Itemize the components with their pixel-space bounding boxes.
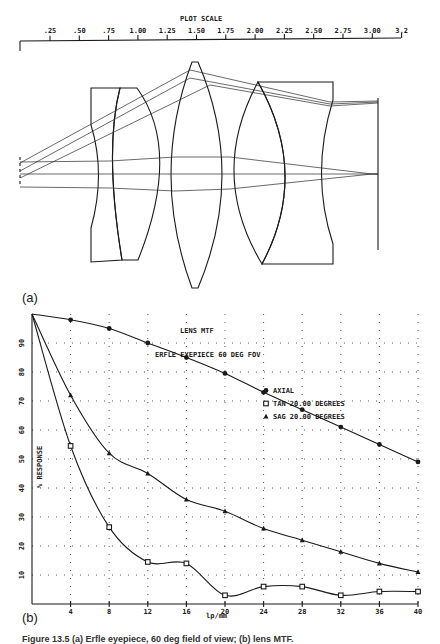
x-tick-label: 28 (298, 608, 306, 616)
data-point-tan (68, 444, 73, 449)
ray-axial-upper (20, 157, 378, 174)
ruler-tick-label: .75 (102, 27, 115, 35)
panel-label-b: (b) (22, 610, 38, 625)
x-tick-label: 8 (107, 608, 111, 616)
y-tick-label: 30 (18, 513, 26, 521)
data-point-tan (416, 589, 421, 594)
x-tick-label: 24 (259, 608, 267, 616)
legend-label-sag: SAG 20.00 DEGREES (273, 413, 345, 421)
data-point-tan (107, 525, 112, 530)
data-point-tan (223, 593, 228, 598)
legend-label-axial: AXIAL (273, 387, 294, 395)
ruler-tick-label: 3.2 (395, 27, 408, 35)
x-axis-label: lp/mm (206, 612, 227, 620)
y-tick-label: 90 (18, 339, 26, 347)
lens-element-4 (234, 82, 285, 264)
data-point-tan (146, 560, 151, 565)
x-tick-label: 12 (144, 608, 152, 616)
plot-scale-ruler: PLOT SCALE .25.50.751.001.251.501.752.00… (20, 15, 408, 51)
ruler-tick-label: 1.75 (217, 27, 234, 35)
data-point-tan (339, 593, 344, 598)
y-tick-label: 50 (18, 455, 26, 463)
lens-diagram: (a) (20, 62, 378, 305)
y-tick-label: 10 (18, 571, 26, 579)
data-point-tan (261, 584, 266, 589)
series-axial-line (32, 314, 418, 462)
ruler-tick-label: 2.50 (305, 27, 322, 35)
data-point-axial (416, 460, 421, 465)
data-point-axial (145, 341, 150, 346)
mtf-chart: 481216202428323640 102030405060708090 LE… (18, 314, 422, 625)
ruler-title: PLOT SCALE (180, 15, 222, 23)
data-point-tan (377, 589, 382, 594)
chart-subtitle: ERFLE EYEPIECE 60 DEG FOV (155, 351, 261, 359)
data-point-tan (184, 561, 189, 566)
data-point-axial (68, 317, 73, 322)
ray-axial-lower (20, 174, 378, 191)
panel-label-a: (a) (22, 290, 38, 305)
ruler-tick-label: 2.75 (335, 27, 352, 35)
y-tick-label: 70 (18, 397, 26, 405)
legend: AXIALTAN 20.00 DEGREESSAG 20.00 DEGREES (264, 387, 345, 421)
chart-title: LENS MTF (180, 327, 214, 335)
ruler-tick-label: .50 (73, 27, 86, 35)
legend-marker-axial (264, 388, 269, 393)
series-axial (32, 314, 420, 464)
x-tick-label: 4 (68, 608, 72, 616)
y-tick-label: 80 (18, 368, 26, 376)
x-tick-label: 32 (337, 608, 345, 616)
legend-marker-tan (264, 401, 269, 406)
lens-element-5 (258, 82, 333, 264)
x-tick-label: 36 (375, 608, 383, 616)
legend-label-tan: TAN 20.00 DEGREES (273, 400, 345, 408)
legend-marker-sag (264, 414, 269, 419)
ruler-tick-label: 2.25 (276, 27, 293, 35)
y-tick-label: 60 (18, 426, 26, 434)
data-point-axial (377, 442, 382, 447)
lens-element-3 (171, 62, 222, 288)
data-point-axial (338, 425, 343, 430)
y-tick-label: 40 (18, 484, 26, 492)
ruler-tick-label: 2.00 (247, 27, 264, 35)
figure: PLOT SCALE .25.50.751.001.251.501.752.00… (0, 0, 440, 644)
ray-offaxis-1 (20, 70, 378, 163)
ruler-baseline (20, 38, 401, 41)
data-point-tan (300, 584, 305, 589)
ruler-tick-label: 3.00 (364, 27, 381, 35)
ruler-tick-label: 1.00 (129, 27, 146, 35)
data-point-axial (223, 371, 228, 376)
ray-offaxis-3 (20, 85, 378, 178)
x-tick-label: 16 (182, 608, 190, 616)
figure-caption: Figure 13.5 (a) Erfle eyepiece, 60 deg f… (22, 634, 294, 644)
ruler-tick-label: 1.50 (188, 27, 205, 35)
data-point-axial (107, 326, 112, 331)
y-axis-label: % RESPONSE (36, 446, 44, 488)
ruler-tick-label: .25 (44, 27, 57, 35)
lens-element-1 (91, 88, 122, 262)
data-point-axial (300, 407, 305, 412)
x-tick-label: 40 (414, 608, 422, 616)
ruler-tick-label: 1.25 (159, 27, 176, 35)
y-tick-label: 20 (18, 542, 26, 550)
